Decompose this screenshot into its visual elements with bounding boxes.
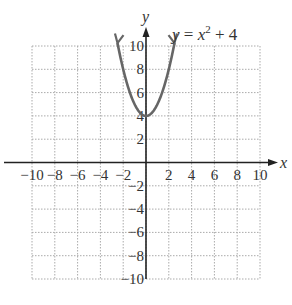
x-tick-label: 2 <box>165 167 173 183</box>
y-tick-label: −2 <box>128 178 144 194</box>
parabola-graph: −10−8−6−4−2246810108642−2−4−6−8−10 x y y… <box>0 0 292 305</box>
y-axis-label: y <box>140 8 150 26</box>
x-tick-label: 6 <box>211 167 219 183</box>
y-axis-arrow-icon <box>143 27 150 37</box>
y-tick-label: 8 <box>137 61 145 77</box>
x-tick-label: −6 <box>70 167 86 183</box>
x-tick-label: 10 <box>253 167 268 183</box>
equation-label: y = x2 + 4 <box>170 23 238 44</box>
x-axis-label: x <box>279 154 287 171</box>
y-tick-label: −8 <box>128 248 144 264</box>
y-tick-label: 2 <box>137 131 145 147</box>
curve-arrow-icon <box>115 33 124 43</box>
x-tick-label: 4 <box>188 167 196 183</box>
x-tick-label: 8 <box>233 167 241 183</box>
x-tick-label: −4 <box>92 167 108 183</box>
x-tick-label: −8 <box>47 167 63 183</box>
y-tick-label: −4 <box>128 201 144 217</box>
x-axis-arrow-icon <box>268 159 278 166</box>
y-tick-label: −6 <box>128 224 144 240</box>
y-tick-label: 6 <box>137 85 145 101</box>
x-tick-label: −10 <box>20 167 43 183</box>
y-tick-label: −10 <box>121 271 144 287</box>
y-tick-label: 10 <box>129 38 144 54</box>
